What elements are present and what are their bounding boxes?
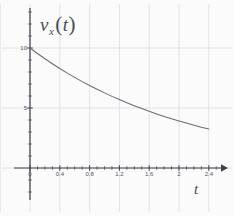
chart-figure: vx(t) t 00.40.81.21.622.4 510 [0, 0, 234, 216]
axis-lines [14, 8, 228, 200]
major-tick-marks [27, 48, 209, 171]
minor-tick-marks [28, 12, 216, 192]
horizontal-gridlines [2, 48, 232, 168]
x-axis-arrowhead [221, 164, 228, 172]
plot-canvas [0, 0, 234, 216]
